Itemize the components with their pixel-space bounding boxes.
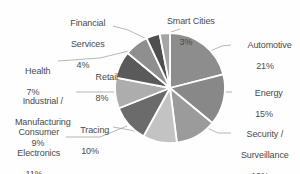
pie-label-automotive-text: Automotive xyxy=(248,40,292,50)
pie-label-security-value: 12% xyxy=(222,171,298,174)
pie-label-retail-value: 8% xyxy=(80,93,124,103)
pie-label-financial-services: Financial Services 4% xyxy=(52,8,114,91)
pie-label-automotive-value: 21% xyxy=(232,61,298,71)
pie-label-financial-value: 4% xyxy=(52,60,114,70)
pie-label-financial-text-line2: Services xyxy=(71,39,105,49)
pie-label-energy-text: Energy xyxy=(255,88,283,98)
pie-label-health-value: 7% xyxy=(8,87,58,97)
pie-label-health: Health 7% xyxy=(8,56,58,118)
pie-label-tracing-text: Tracing xyxy=(80,125,109,135)
pie-chart-figure: Smart Cities 3% Automotive 21% Energy 15… xyxy=(0,0,300,174)
pie-label-security-text-line2: Surveillance xyxy=(241,150,289,160)
pie-label-smart-cities-value: 3% xyxy=(152,37,220,47)
pie-label-security-surveillance: Security / Surveillance 12% xyxy=(222,119,298,174)
pie-label-smart-cities: Smart Cities 3% xyxy=(152,6,220,68)
pie-label-smart-cities-text: Smart Cities xyxy=(167,16,215,26)
pie-label-industrial-value: 9% xyxy=(0,138,76,148)
pie-label-security-text-line1: Security / xyxy=(247,129,284,139)
pie-label-financial-text-line1: Financial xyxy=(70,18,105,28)
pie-label-consumer-value: 11% xyxy=(2,169,66,174)
pie-label-industrial-text-line2: Manufacturing xyxy=(15,117,71,127)
pie-label-health-text: Health xyxy=(25,66,50,76)
